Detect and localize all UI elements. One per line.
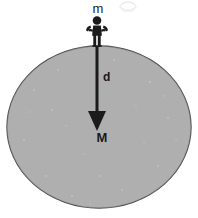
planet-body [7, 46, 191, 208]
label-small-mass: m [0, 2, 198, 15]
label-large-mass: M [0, 131, 198, 144]
person-icon [86, 16, 108, 47]
label-distance: d [103, 71, 110, 83]
diagram-canvas [0, 0, 198, 218]
physics-diagram: m d M [0, 0, 198, 218]
